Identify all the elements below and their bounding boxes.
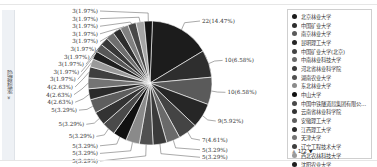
legend-item[interactable]: 中国矿业大学(北京) [288,47,371,56]
slice-label: 4(2.63%) [46,92,72,98]
slice-label: 5(3.29%) [51,107,77,113]
legend-marker-icon [292,118,297,123]
slice-label: 3(1.97%) [58,61,84,67]
slice-label: 5(3.29%) [69,133,95,139]
legend-item[interactable]: 东北林业大学 [288,82,371,91]
legend-marker-icon [292,23,297,28]
legend-page-indicator: 1/2 [298,148,307,154]
legend-item[interactable]: 南京林业大学 [288,29,371,38]
legend-item[interactable]: 天津大学 [288,134,371,143]
label-leader-line [160,144,200,157]
legend-item[interactable]: 江西理工大学 [288,125,371,134]
legend-item[interactable]: 中国矿业大学 [288,21,371,30]
slice-label: 3(1.97%) [72,31,98,37]
legend-marker-icon [292,92,297,97]
slice-label: 3(1.97%) [64,54,90,60]
legend-next-page-icon[interactable]: ▼ [309,148,313,154]
legend-marker-icon [292,31,297,36]
slice-label: 3(1.97%) [54,69,80,75]
label-leader-line [211,91,225,92]
slice-label: 10(6.58%) [225,57,254,63]
slice-label: 3(1.97%) [70,46,96,52]
legend-list: 北京林业大学中国矿业大学南京林业大学昆明理工大学中国矿业大学(北京)中南林业科技… [288,10,371,167]
slice-label: 4(2.63%) [47,99,73,105]
legend-label: 湖南农业大学 [301,74,369,81]
label-leader-line [86,119,99,125]
legend-label: 中国矿业大学(北京) [301,48,369,55]
legend-pager: ▲ 1/2 ▼ [292,148,313,154]
legend-prev-page-icon[interactable]: ▲ [292,148,296,154]
legend-label: 南京林业大学 [301,30,369,37]
legend-label: 中国矿业大学 [301,22,369,29]
slice-label: 3(1.97%) [72,16,98,22]
legend-marker-icon [292,109,297,114]
legend-label: 云南省林业科学院 [301,108,369,115]
legend-item[interactable]: 中南林业科技大学 [288,55,371,64]
label-leader-line [182,21,200,30]
legend-label: 安徽理工大学 [301,117,369,124]
label-leader-line [96,129,108,136]
legend-marker-icon [292,162,297,167]
legend-label: 天津大学 [301,134,369,141]
label-leader-line [75,94,89,102]
legend-item[interactable]: 安徽理工大学 [288,116,371,125]
divider-bottom [0,160,377,161]
legend-item[interactable]: 北京林业大学 [288,12,371,21]
slice-label: 3(1.97%) [72,38,98,44]
slice-label: 5(3.29%) [202,147,228,153]
slice-label: 3(1.97%) [72,8,98,14]
legend-item[interactable]: 湖南农业大学 [288,73,371,82]
legend-label: 东北林业大学 [301,82,369,89]
slice-label: 3(1.97%) [50,76,76,82]
legend-item[interactable]: 中国中铁隧道局集团有限公司... [288,99,371,108]
legend-marker-icon [292,40,297,45]
slice-label: 5(3.29%) [72,150,98,156]
legend-marker-icon [292,14,297,19]
label-leader-line [100,17,140,22]
label-leader-line [203,116,216,121]
legend-label: 昆明理工大学 [301,39,369,46]
label-leader-line [100,137,120,146]
slice-label: 5(3.29%) [72,143,98,149]
legend-item[interactable]: 中山大学 [288,90,371,99]
legend-marker-icon [292,75,297,80]
legend-item[interactable]: 云南省林业科学院 [288,108,371,117]
slice-label: 7(4.61%) [202,137,228,143]
label-leader-line [188,132,200,140]
legend-marker-icon [292,57,297,62]
slice-label: 3(1.97%) [72,23,98,29]
legend-label: 江西理工大学 [301,126,369,133]
pie-chart: 22(14.47%)10(6.58%)10(6.58%)9(5.92%)7(4.… [0,0,280,167]
legend-label: 中山大学 [301,91,369,98]
legend-label: 河北省林业科学院 [301,65,369,72]
slice-label: 10(6.58%) [227,89,256,95]
label-leader-line [173,140,200,149]
legend-label: 沈阳农业大学 [301,161,369,167]
legend-marker-icon [292,49,297,54]
pie-chart-svg: 22(14.47%)10(6.58%)10(6.58%)9(5.92%)7(4.… [0,0,280,167]
slice-label: 5(3.29%) [59,121,85,127]
label-leader-line [79,106,93,110]
legend-marker-icon [292,83,297,88]
slice-label: 22(14.47%) [202,18,235,24]
chart-panel: 隐藏检索 » 22(14.47%)10(6.58%)10(6.58%)9(5.9… [0,0,377,167]
legend-item[interactable]: 昆明理工大学 [288,38,371,47]
label-leader-line [100,11,148,21]
slice-label: 4(2.63%) [47,84,73,90]
chart-legend: 北京林业大学中国矿业大学南京林业大学昆明理工大学中国矿业大学(北京)中南林业科技… [287,9,372,159]
label-leader-line [209,60,223,63]
legend-label: 北京林业大学 [301,13,369,20]
legend-marker-icon [292,135,297,140]
legend-marker-icon [292,66,297,71]
legend-label: 中国中铁隧道局集团有限公司... [301,100,369,107]
legend-marker-icon [292,127,297,132]
slice-label: 9(5.92%) [218,118,244,124]
legend-item[interactable]: 河北省林业科学院 [288,64,371,73]
legend-label: 中南林业科技大学 [301,56,369,63]
label-leader-line [74,83,88,94]
legend-marker-icon [292,101,297,106]
